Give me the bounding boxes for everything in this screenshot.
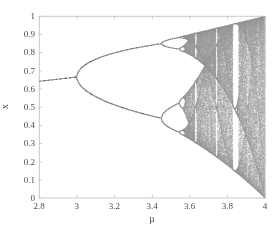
x-axis-tick-label: 3.2 bbox=[99, 201, 129, 211]
y-axis-tick-label: 0.6 bbox=[0, 84, 35, 94]
x-axis-title: μ bbox=[132, 213, 172, 224]
y-axis-tick-label: 0.3 bbox=[0, 138, 35, 148]
x-axis-tick-label: 3.8 bbox=[212, 201, 242, 211]
y-axis-tick-label: 0.9 bbox=[0, 29, 35, 39]
y-axis-title: x bbox=[0, 104, 10, 109]
x-axis-tick-label: 3.4 bbox=[137, 201, 167, 211]
y-axis-tick-label: 0.7 bbox=[0, 66, 35, 76]
y-axis-tick-label: 0.2 bbox=[0, 157, 35, 167]
x-axis-tick-label: 2.8 bbox=[24, 201, 54, 211]
y-axis-tick-label: 0.4 bbox=[0, 120, 35, 130]
bifurcation-plot-canvas bbox=[0, 0, 279, 231]
y-axis-tick-label: 0.1 bbox=[0, 175, 35, 185]
x-axis-tick-label: 3.6 bbox=[175, 201, 205, 211]
y-axis-tick-label: 1 bbox=[0, 11, 35, 21]
x-axis-tick-label: 3 bbox=[62, 201, 92, 211]
y-axis-tick-label: 0.8 bbox=[0, 47, 35, 57]
x-axis-tick-label: 4 bbox=[250, 201, 279, 211]
bifurcation-diagram-figure: 00.10.20.30.40.50.60.70.80.91 2.833.23.4… bbox=[0, 0, 279, 231]
